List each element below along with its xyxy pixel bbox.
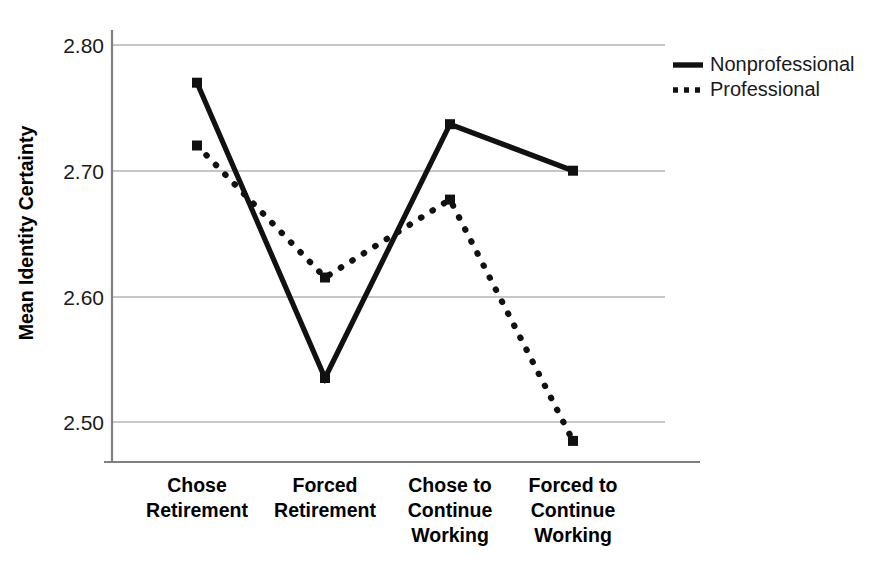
x-tick-label-3: Forced toContinueWorking (529, 474, 618, 546)
data-point-marker: Nonprofessional — Chose to Continue Work… (445, 119, 455, 129)
y-axis-title: Mean Identity Certainty (15, 126, 37, 341)
data-point-marker: Professional — Forced to Continue Workin… (568, 436, 578, 446)
series-line-professional (197, 146, 573, 441)
data-point-marker: Professional — Chose to Continue Working… (445, 195, 455, 205)
y-tick-label-2-80: 2.80 (63, 34, 104, 57)
line-chart: 2.80 2.70 2.60 2.50 Mean Identity Certai… (0, 0, 887, 563)
y-tick-label-2-60: 2.60 (63, 286, 104, 309)
series-professional: Professional — Chose Retirement: 2.72Pro… (192, 141, 578, 446)
data-point-marker: Nonprofessional — Forced to Continue Wor… (568, 166, 578, 176)
y-tick-label-2-70: 2.70 (63, 160, 104, 183)
x-tick-label-0: ChoseRetirement (146, 474, 248, 521)
data-point-marker: Nonprofessional — Chose Retirement: 2.77 (192, 78, 202, 88)
chart-figure: 2.80 2.70 2.60 2.50 Mean Identity Certai… (0, 0, 887, 563)
legend-label-nonprofessional: Nonprofessional (710, 53, 855, 75)
legend-item-professional[interactable]: Professional (673, 78, 820, 100)
series-line-nonprofessional (197, 83, 573, 378)
y-tick-labels: 2.80 2.70 2.60 2.50 (63, 34, 104, 434)
x-tick-label-2: Chose toContinueWorking (408, 474, 493, 546)
gridlines (112, 45, 665, 422)
data-point-marker: Professional — Chose Retirement: 2.72 (192, 141, 202, 151)
series-markers-professional: Professional — Chose Retirement: 2.72Pro… (192, 141, 578, 446)
axis-lines (104, 30, 700, 462)
x-tick-label-1: ForcedRetirement (274, 474, 376, 521)
data-point-marker: Professional — Forced Retirement: 2.615 (320, 273, 330, 283)
data-point-marker: Nonprofessional — Forced Retirement: 2.5… (320, 373, 330, 383)
y-tick-label-2-50: 2.50 (63, 411, 104, 434)
legend-item-nonprofessional[interactable]: Nonprofessional (673, 53, 855, 75)
legend-label-professional: Professional (710, 78, 820, 100)
chart-legend: Nonprofessional Professional (673, 53, 855, 100)
x-tick-labels: ChoseRetirementForcedRetirementChose toC… (146, 474, 617, 546)
